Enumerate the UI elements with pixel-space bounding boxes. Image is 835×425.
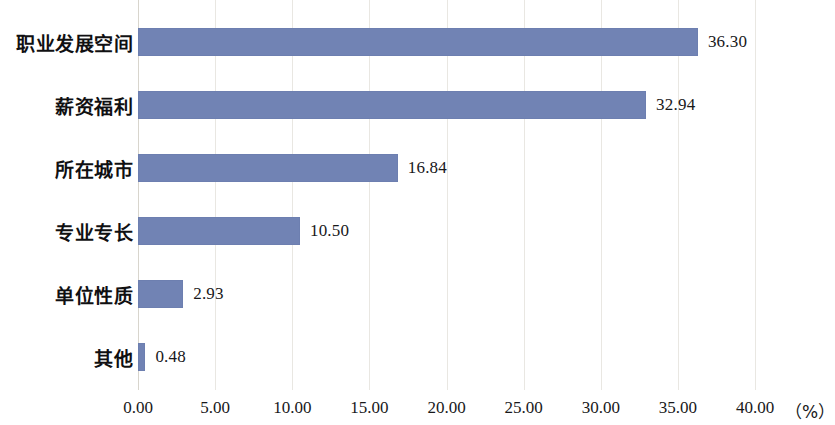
category-label: 所在城市 xyxy=(55,154,133,182)
x-tick-label: 40.00 xyxy=(736,398,774,418)
bar-value-label: 0.48 xyxy=(155,347,186,367)
bar[interactable] xyxy=(138,217,300,245)
x-axis-unit-label: （%） xyxy=(785,398,835,423)
bar-value-label: 2.93 xyxy=(193,284,224,304)
bar-value-label: 36.30 xyxy=(708,32,747,52)
bar[interactable] xyxy=(138,28,698,56)
x-axis: 0.005.0010.0015.0020.0025.0030.0035.0040… xyxy=(138,390,835,425)
gridline-10.00 xyxy=(292,0,293,390)
bar-value-label: 16.84 xyxy=(408,158,447,178)
x-tick-label: 10.00 xyxy=(273,398,311,418)
bar-row[interactable]: 16.84 xyxy=(138,154,755,182)
x-tick-label: 30.00 xyxy=(582,398,620,418)
category-label: 其他 xyxy=(94,343,133,371)
category-label: 专业专长 xyxy=(55,217,133,245)
bar-row[interactable]: 10.50 xyxy=(138,217,755,245)
bar-chart: 职业发展空间薪资福利所在城市专业专长单位性质其他 36.3032.9416.84… xyxy=(0,0,835,425)
bar-row[interactable]: 2.93 xyxy=(138,280,755,308)
bar-row[interactable]: 0.48 xyxy=(138,343,755,371)
bar[interactable] xyxy=(138,280,183,308)
x-tick-label: 35.00 xyxy=(659,398,697,418)
category-label: 薪资福利 xyxy=(55,91,133,119)
plot-area: 36.3032.9416.8410.502.930.48 xyxy=(138,0,755,390)
category-label: 单位性质 xyxy=(55,280,133,308)
bar[interactable] xyxy=(138,91,646,119)
gridline-5.00 xyxy=(215,0,216,390)
gridline-35.00 xyxy=(678,0,679,390)
category-label: 职业发展空间 xyxy=(16,28,133,56)
gridline-25.00 xyxy=(524,0,525,390)
bar-value-label: 32.94 xyxy=(656,95,695,115)
x-tick-label: 5.00 xyxy=(200,398,230,418)
x-tick-label: 15.00 xyxy=(350,398,388,418)
gridline-15.00 xyxy=(369,0,370,390)
x-tick-label: 25.00 xyxy=(505,398,543,418)
gridline-30.00 xyxy=(601,0,602,390)
bar-row[interactable]: 36.30 xyxy=(138,28,755,56)
x-tick-label: 0.00 xyxy=(123,398,153,418)
gridline-20.00 xyxy=(447,0,448,390)
bar-row[interactable]: 32.94 xyxy=(138,91,755,119)
gridline-40.00 xyxy=(755,0,756,390)
x-tick-label: 20.00 xyxy=(427,398,465,418)
bar[interactable] xyxy=(138,343,145,371)
bar[interactable] xyxy=(138,154,398,182)
gridline-0.00 xyxy=(138,0,139,390)
category-axis-labels: 职业发展空间薪资福利所在城市专业专长单位性质其他 xyxy=(0,0,133,390)
bar-value-label: 10.50 xyxy=(310,221,349,241)
